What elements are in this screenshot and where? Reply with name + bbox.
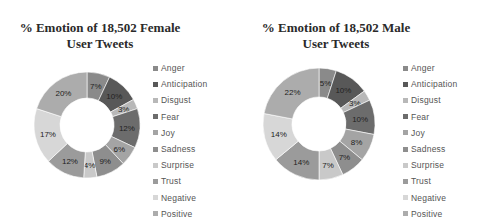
legend-item-joy: Joy [153, 125, 207, 141]
legend-label: Disgust [161, 95, 191, 105]
legend-swatch [403, 195, 408, 200]
male-donut-chart: 5%10%3%10%8%7%7%14%14%22% [260, 65, 378, 183]
legend-item-trust: Trust [153, 173, 207, 189]
legend-item-sadness: Sadness [153, 141, 207, 157]
legend-swatch [403, 66, 408, 71]
data-label: 5% [320, 79, 332, 88]
legend-label: Sadness [411, 144, 445, 154]
legend-item-anger: Anger [403, 60, 457, 76]
female-title-line-2: User Tweets [0, 36, 200, 52]
legend-label: Positive [411, 209, 442, 219]
legend-swatch [153, 82, 158, 87]
legend-swatch [403, 82, 408, 87]
legend-swatch [153, 114, 158, 119]
legend-item-negative: Negative [153, 190, 207, 206]
female-chart-legend: AngerAnticipationDisgustFearJoySadnessSu… [153, 60, 207, 220]
male-chart-panel: % Emotion of 18,502 Male User Tweets 5%1… [240, 0, 480, 220]
legend-item-anticipation: Anticipation [403, 76, 457, 92]
data-label: 4% [84, 161, 96, 170]
data-label: 12% [62, 157, 78, 166]
legend-item-trust: Trust [403, 173, 457, 189]
legend-label: Negative [411, 193, 446, 203]
data-label: 10% [352, 115, 368, 124]
legend-swatch [403, 211, 408, 216]
data-label: 7% [322, 161, 334, 170]
legend-label: Positive [161, 209, 192, 219]
legend-item-positive: Positive [153, 206, 207, 220]
legend-label: Surprise [161, 160, 194, 170]
legend-item-positive: Positive [403, 206, 457, 220]
data-label: 7% [339, 153, 351, 162]
legend-label: Surprise [411, 160, 444, 170]
legend-label: Sadness [161, 144, 195, 154]
data-label: 9% [99, 157, 111, 166]
legend-swatch [153, 98, 158, 103]
legend-swatch [403, 98, 408, 103]
legend-swatch [403, 130, 408, 135]
male-title-line-1: % Emotion of 18,502 Male [238, 20, 434, 36]
legend-item-negative: Negative [403, 190, 457, 206]
legend-swatch [403, 179, 408, 184]
legend-swatch [403, 147, 408, 152]
legend-item-sadness: Sadness [403, 141, 457, 157]
legend-label: Fear [161, 112, 179, 122]
data-label: 17% [40, 130, 56, 139]
legend-swatch [153, 147, 158, 152]
legend-item-joy: Joy [403, 125, 457, 141]
legend-label: Anticipation [161, 79, 207, 89]
data-label: 7% [90, 82, 102, 91]
legend-label: Anticipation [411, 79, 457, 89]
legend-label: Joy [161, 128, 175, 138]
legend-label: Negative [161, 193, 196, 203]
legend-swatch [403, 163, 408, 168]
data-label: 8% [351, 138, 363, 147]
data-label: 10% [106, 92, 122, 101]
female-title-line-1: % Emotion of 18,502 Female [0, 20, 200, 36]
legend-label: Joy [411, 128, 425, 138]
male-title-line-2: User Tweets [238, 36, 434, 52]
legend-swatch [403, 114, 408, 119]
female-chart-panel: % Emotion of 18,502 Female User Tweets 7… [0, 0, 240, 220]
female-donut-chart: 7%10%3%12%6%9%4%12%17%20% [30, 68, 144, 182]
legend-label: Fear [411, 112, 429, 122]
male-chart-legend: AngerAnticipationDisgustFearJoySadnessSu… [403, 60, 457, 220]
legend-item-anticipation: Anticipation [153, 76, 207, 92]
legend-item-surprise: Surprise [153, 157, 207, 173]
legend-swatch [153, 179, 158, 184]
data-label: 14% [271, 130, 287, 139]
legend-label: Anger [161, 63, 185, 73]
data-label: 10% [335, 86, 351, 95]
legend-item-surprise: Surprise [403, 157, 457, 173]
legend-item-disgust: Disgust [403, 92, 457, 108]
legend-label: Anger [411, 63, 435, 73]
legend-swatch [153, 195, 158, 200]
data-label: 14% [293, 158, 309, 167]
legend-label: Trust [161, 176, 181, 186]
legend-swatch [153, 66, 158, 71]
legend-item-fear: Fear [153, 109, 207, 125]
female-chart-title: % Emotion of 18,502 Female User Tweets [0, 20, 200, 52]
data-label: 12% [119, 124, 135, 133]
legend-item-disgust: Disgust [153, 92, 207, 108]
legend-label: Trust [411, 176, 431, 186]
legend-swatch [153, 211, 158, 216]
data-label: 6% [114, 145, 126, 154]
data-label: 22% [285, 88, 301, 97]
legend-item-fear: Fear [403, 109, 457, 125]
male-chart-title: % Emotion of 18,502 Male User Tweets [238, 20, 434, 52]
legend-item-anger: Anger [153, 60, 207, 76]
data-label: 20% [55, 89, 71, 98]
legend-swatch [153, 163, 158, 168]
legend-swatch [153, 130, 158, 135]
legend-label: Disgust [411, 95, 441, 105]
